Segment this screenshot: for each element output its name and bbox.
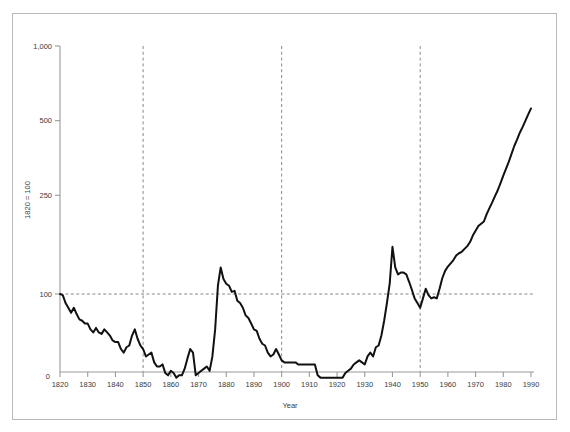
x-axis-tick-label: 1980 xyxy=(495,380,512,389)
figure-container: 1002505001,00018201830184018501860187018… xyxy=(0,0,570,432)
x-axis-tick-label: 1880 xyxy=(218,380,235,389)
y-axis-title: 1820 = 100 xyxy=(23,181,32,219)
x-axis-tick-label: 1950 xyxy=(412,380,429,389)
x-axis-tick-label: 1860 xyxy=(162,380,179,389)
x-axis-tick-label: 1900 xyxy=(273,380,290,389)
y-axis-tick-label: 100 xyxy=(39,290,52,299)
x-axis-tick-label: 1820 xyxy=(52,380,69,389)
x-axis-tick-label: 1830 xyxy=(79,380,96,389)
x-axis-tick-label: 1840 xyxy=(107,380,124,389)
x-axis-tick-label: 1920 xyxy=(329,380,346,389)
x-axis-tick-label: 1890 xyxy=(246,380,263,389)
gridlines-group xyxy=(60,46,534,372)
data-line xyxy=(60,108,531,377)
origin-label: 0 xyxy=(46,372,50,381)
y-axis-tick-label: 500 xyxy=(39,116,52,125)
x-axis-tick-label: 1960 xyxy=(440,380,457,389)
x-axis-tick-label: 1910 xyxy=(301,380,318,389)
x-axis-tick-label: 1870 xyxy=(190,380,207,389)
x-axis-title: Year xyxy=(282,401,298,410)
x-axis-tick-label: 1940 xyxy=(384,380,401,389)
chart-canvas: 1002505001,00018201830184018501860187018… xyxy=(0,0,570,432)
x-axis-tick-label: 1970 xyxy=(467,380,484,389)
y-axis-tick-label: 1,000 xyxy=(33,42,52,51)
x-axis-tick-label: 1990 xyxy=(523,380,540,389)
x-axis-tick-label: 1850 xyxy=(135,380,152,389)
x-axis-tick-label: 1930 xyxy=(356,380,373,389)
y-axis-tick-label: 250 xyxy=(39,191,52,200)
data-series-group xyxy=(60,108,531,377)
axes-group xyxy=(55,46,534,377)
tick-labels-group: 1002505001,00018201830184018501860187018… xyxy=(33,42,539,389)
